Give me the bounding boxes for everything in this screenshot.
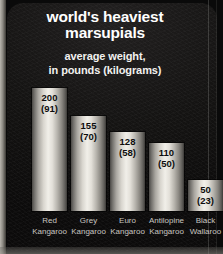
bar-value-label: 50(23)	[188, 184, 223, 206]
bar-red-kangaroo: 200(91)	[32, 88, 67, 211]
bar-value-pounds: 200	[32, 92, 67, 103]
bar-antilopine-kangaroo: 110(50)	[149, 143, 184, 211]
bar-value-label: 128(58)	[110, 136, 145, 158]
bar-value-pounds: 50	[188, 184, 223, 195]
chart-plot-area: 200(91)RedKangaroo155(70)GreyKangaroo128…	[0, 0, 223, 254]
bar-euro-kangaroo: 128(58)	[110, 132, 145, 211]
bar-value-kilograms: (50)	[149, 158, 184, 169]
bar-value-label: 200(91)	[32, 92, 67, 114]
category-label-line-1: Black	[182, 216, 223, 227]
bar-value-kilograms: (58)	[110, 147, 145, 158]
chart-screenshot: world's heaviest marsupials average weig…	[0, 0, 223, 254]
bar-value-label: 155(70)	[71, 120, 106, 142]
bar-black-wallaroo: 50(23)	[188, 180, 223, 211]
bar-value-pounds: 128	[110, 136, 145, 147]
bar-value-pounds: 155	[71, 120, 106, 131]
category-label-line-2: Wallaroo	[182, 227, 223, 238]
bar-value-kilograms: (91)	[32, 103, 67, 114]
bar-grey-kangaroo: 155(70)	[71, 116, 106, 211]
bar-value-kilograms: (23)	[188, 195, 223, 206]
category-label-black-wallaroo: BlackWallaroo	[182, 216, 223, 237]
bar-value-kilograms: (70)	[71, 131, 106, 142]
bar-value-pounds: 110	[149, 147, 184, 158]
bar-value-label: 110(50)	[149, 147, 184, 169]
